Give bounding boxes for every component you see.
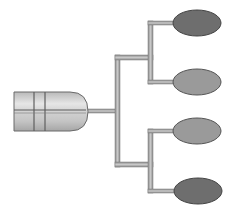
root-node [14,92,88,131]
leaf-3-connector [148,129,174,133]
leaf-node-2 [173,69,221,95]
main-vertical-connector [115,55,120,167]
leaf-node-4 [174,178,222,204]
root-cylinder-body [14,92,88,131]
top-sub-vertical-connector [148,21,153,84]
bottom-branch-connector [115,162,153,167]
top-branch-connector [115,55,153,60]
leaf-node-3 [173,118,221,144]
tree-diagram [0,0,235,216]
root-stem-connector [86,109,118,113]
leaf-2-connector [148,80,174,84]
connectors [86,21,175,193]
leaf-4-connector [148,189,175,193]
bottom-sub-vertical-connector [148,129,153,193]
leaf-1-connector [148,21,174,25]
leaf-nodes [173,10,222,204]
leaf-node-1 [173,10,221,36]
